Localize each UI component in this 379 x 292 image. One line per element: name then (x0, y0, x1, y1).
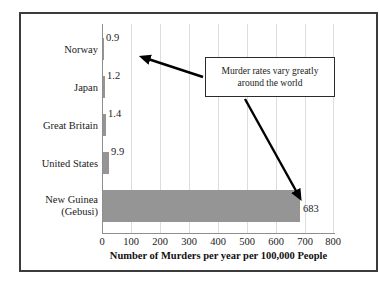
category-label-new-guinea: New Guinea (Gebusi) (45, 194, 98, 218)
x-tick-300: 300 (174, 236, 204, 247)
x-tick-0: 0 (87, 236, 117, 247)
x-tick-600: 600 (261, 236, 291, 247)
value-label-united-states: 9.9 (111, 146, 124, 157)
x-axis-title: Number of Murders per year per 100,000 P… (102, 250, 335, 261)
category-label-united-states: United States (42, 158, 98, 170)
annotation-callout-box: Murder rates vary greatly around the wor… (205, 57, 335, 97)
x-tick-200: 200 (145, 236, 175, 247)
x-tick-700: 700 (290, 236, 320, 247)
value-label-japan: 1.2 (107, 70, 120, 81)
x-tick-400: 400 (203, 236, 233, 247)
gridline-700 (305, 24, 306, 233)
category-label-norway: Norway (64, 44, 98, 56)
category-label-japan: Japan (74, 82, 98, 94)
bar-united-states (102, 152, 109, 174)
plot-area (102, 24, 334, 233)
x-tick-800: 800 (318, 236, 348, 247)
y-axis-line (102, 24, 103, 234)
value-label-new-guinea: 683 (303, 203, 319, 214)
x-tick-500: 500 (232, 236, 262, 247)
gridline-800 (333, 24, 334, 233)
bar-chart: Norway Japan Great Britain United States… (0, 0, 379, 292)
annotation-callout-text: Murder rates vary greatly around the wor… (222, 65, 319, 89)
value-label-great-britain: 1.4 (108, 108, 121, 119)
value-label-norway: 0.9 (106, 32, 119, 43)
category-label-great-britain: Great Britain (43, 120, 98, 132)
bar-new-guinea (102, 190, 300, 222)
x-tick-100: 100 (116, 236, 146, 247)
x-axis-line (102, 233, 335, 234)
